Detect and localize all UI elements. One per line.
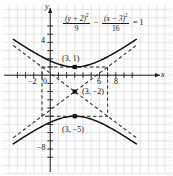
label-center: (3, −2) bbox=[82, 87, 104, 96]
equation-operator: − bbox=[92, 19, 100, 27]
equation-right-numerator: (x − 3)2 bbox=[102, 12, 129, 24]
x-axis-label: x bbox=[161, 70, 165, 79]
x-tick-label-6: 6 bbox=[97, 77, 101, 86]
hyperbola-figure: (y + 2)2 9 − (x − 3)2 16 = 1 y x −2 0 6 … bbox=[0, 0, 173, 176]
equation-left-fraction: (y + 2)2 9 bbox=[63, 12, 90, 34]
x-tick-label-8: 8 bbox=[114, 77, 118, 86]
label-vertex-bottom: (3, −5) bbox=[62, 125, 84, 134]
x-axis-arrow bbox=[155, 73, 160, 77]
equation-right-fraction: (x − 3)2 16 bbox=[102, 12, 129, 34]
equation-equals: = 1 bbox=[131, 19, 145, 27]
equation-left-numerator: (y + 2)2 bbox=[63, 12, 90, 24]
y-axis-label: y bbox=[45, 2, 49, 11]
y-tick-label-4: 4 bbox=[41, 36, 45, 45]
y-tick-label-neg8: −8 bbox=[37, 143, 46, 152]
label-vertex-top: (3, 1) bbox=[62, 54, 79, 63]
x-tick-label-0: 0 bbox=[43, 77, 47, 86]
equation-label: (y + 2)2 9 − (x − 3)2 16 = 1 bbox=[63, 12, 171, 36]
equation-right-denominator: 16 bbox=[102, 24, 129, 34]
x-tick-label-neg2: −2 bbox=[28, 77, 37, 86]
equation-left-denominator: 9 bbox=[63, 24, 90, 34]
